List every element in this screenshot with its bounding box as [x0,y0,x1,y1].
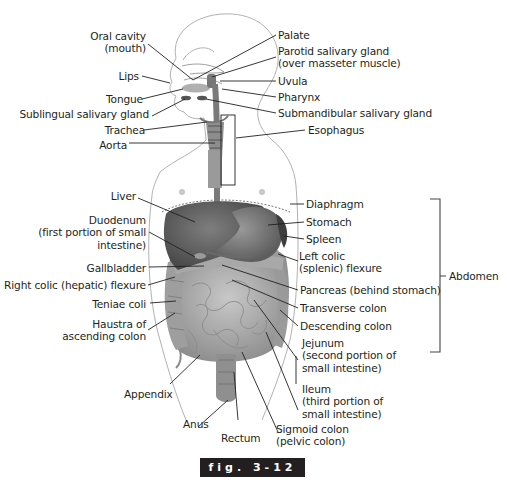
label-lips: Lips [119,70,140,82]
label-sigmoid-colon: Sigmoid colon (pelvic colon) [276,423,349,448]
label-left-colic-flexure: Left colic (splenic) flexure [299,250,382,275]
sublingual-gland [181,96,191,101]
label-teniae-coli: Teniae coli [92,298,146,310]
label-parotid: Parotid salivary gland (over masseter mu… [278,45,401,70]
label-submandibular: Submandibular salivary gland [278,107,432,119]
label-pharynx: Pharynx [278,91,320,103]
submandibular-gland [197,96,207,101]
label-sublingual: Sublingual salivary gland [19,108,149,120]
appendix-shape [176,350,181,368]
label-tongue: Tongue [106,93,143,105]
label-rectum: Rectum [221,432,261,444]
label-spleen: Spleen [306,233,341,245]
label-esophagus: Esophagus [308,124,364,136]
label-uvula: Uvula [278,75,307,87]
label-jejunum: Jejunum (second portion of small intesti… [302,337,396,374]
gallbladder-shape [194,253,206,259]
label-duodenum: Duodenum (first portion of small intesti… [38,214,146,251]
label-right-colic-flexure: Right colic (hepatic) flexure [4,279,146,291]
label-palate: Palate [278,29,310,41]
label-transverse-colon: Transverse colon [300,302,387,314]
label-appendix: Appendix [124,388,173,400]
label-ileum: Ileum (third portion of small intestine) [302,383,383,420]
aorta-shape [208,150,222,188]
label-oral-cavity: Oral cavity (mouth) [90,30,146,55]
label-haustra: Haustra of ascending colon [62,318,146,343]
label-pancreas: Pancreas (behind stomach) [300,284,441,296]
label-anus: Anus [183,418,209,430]
label-stomach: Stomach [306,216,352,228]
label-abdomen: Abdomen [449,270,499,282]
label-liver: Liver [111,190,136,202]
label-trachea: Trachea [105,124,145,136]
figure-caption: fig. 3-12 [200,458,305,477]
abdomen-bracket [430,199,446,352]
label-aorta: Aorta [99,139,127,151]
rectum-shape [216,354,236,402]
label-descending-colon: Descending colon [300,320,392,332]
digestive-system-figure: Oral cavity (mouth) Lips Tongue Sublingu… [0,0,507,484]
label-gallbladder: Gallbladder [87,262,146,274]
label-diaphragm: Diaphragm [306,198,364,210]
